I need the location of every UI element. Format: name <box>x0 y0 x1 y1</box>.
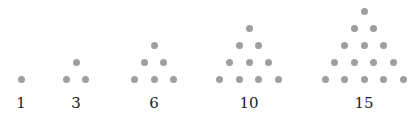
dot <box>380 76 387 83</box>
dot <box>361 8 368 15</box>
dot <box>216 76 223 83</box>
dot <box>351 25 358 32</box>
dot <box>370 59 377 66</box>
dot <box>255 42 262 49</box>
dot <box>390 59 397 66</box>
dot <box>246 25 253 32</box>
dot <box>131 76 138 83</box>
dot <box>351 59 358 66</box>
dot <box>236 76 243 83</box>
dot <box>361 76 368 83</box>
count-label: 15 <box>354 94 373 112</box>
dot <box>265 59 272 66</box>
dot <box>236 42 243 49</box>
dot <box>73 59 80 66</box>
dot <box>63 76 70 83</box>
dot <box>170 76 177 83</box>
dot <box>400 76 407 83</box>
dot <box>341 76 348 83</box>
dot <box>331 59 338 66</box>
dot <box>370 25 377 32</box>
count-label: 6 <box>149 94 159 112</box>
count-label: 1 <box>16 94 26 112</box>
dot <box>151 76 158 83</box>
count-label: 3 <box>71 94 81 112</box>
dot <box>255 76 262 83</box>
count-label: 10 <box>239 94 258 112</box>
dot <box>322 76 329 83</box>
dot <box>151 42 158 49</box>
dot <box>226 59 233 66</box>
triangular-numbers-diagram: 1361015 <box>0 0 418 118</box>
dot <box>361 42 368 49</box>
dot <box>18 76 25 83</box>
dot <box>380 42 387 49</box>
dot <box>160 59 167 66</box>
dot <box>275 76 282 83</box>
dot <box>246 59 253 66</box>
dot <box>141 59 148 66</box>
dot <box>82 76 89 83</box>
dot <box>341 42 348 49</box>
